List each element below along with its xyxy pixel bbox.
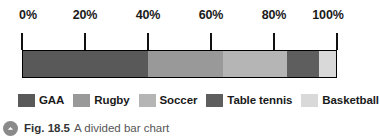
legend-label-basketball: Basketball [322,94,379,107]
tick-mark-40 [147,33,149,50]
figure-caption: Fig. 18.5 A divided bar chart [3,119,169,137]
divided-bar [22,50,337,78]
axis-tick-marks [0,33,367,50]
tick-mark-100 [336,33,338,50]
caption-figure-text: A divided bar chart [74,121,169,135]
tick-mark-20 [84,33,86,50]
legend-swatch-table-tennis [206,94,223,107]
axis-label-40: 40% [136,8,161,23]
axis-label-80: 80% [262,8,287,23]
axis-label-100: 100% [312,8,344,23]
legend-item-basketball: Basketball [301,94,379,107]
legend-swatch-soccer [139,94,156,107]
caption-figure-number: Fig. 18.5 [24,121,70,135]
bar-segment-gaa [23,51,148,77]
legend-swatch-basketball [301,94,318,107]
tick-mark-80 [273,33,275,50]
axis-tick-labels: 0%20%40%60%80%100% [0,8,367,26]
bar-segment-table-tennis [287,51,318,77]
legend-swatch-rugby [73,94,90,107]
axis-label-60: 60% [199,8,224,23]
legend-item-gaa: GAA [18,94,64,107]
tick-mark-60 [210,33,212,50]
chart-legend: GAARugbySoccerTable tennisBasketball [18,92,358,109]
legend-label-soccer: Soccer [160,94,198,107]
legend-label-table-tennis: Table tennis [227,94,292,107]
tick-mark-0 [21,33,23,50]
axis-label-20: 20% [73,8,98,23]
bar-segment-basketball [319,51,336,77]
legend-label-rugby: Rugby [94,94,129,107]
legend-label-gaa: GAA [39,94,64,107]
legend-item-table-tennis: Table tennis [206,94,292,107]
chevron-up-circle-icon [3,121,18,136]
legend-swatch-gaa [18,94,35,107]
bar-segment-soccer [223,51,287,77]
bar-segment-rugby [148,51,223,77]
legend-item-soccer: Soccer [139,94,198,107]
axis-label-0: 0% [19,8,37,23]
legend-item-rugby: Rugby [73,94,129,107]
